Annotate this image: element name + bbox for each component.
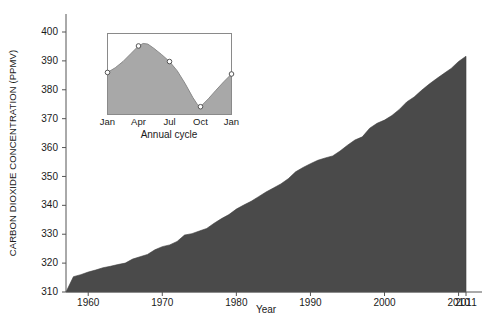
chart-canvas: 310320330340350360370380390400 CARBON DI… — [0, 0, 491, 329]
x-tick-label: 2000 — [373, 297, 396, 308]
y-tick-label: 360 — [41, 142, 58, 153]
x-tick-label: 2011 — [455, 297, 477, 308]
inset-xtick-label: Jul — [163, 116, 175, 127]
inset-xtick-label: Oct — [193, 116, 208, 127]
inset-data-point — [229, 72, 234, 77]
inset-data-point — [198, 104, 203, 109]
x-axis-title: Year — [256, 304, 277, 315]
y-tick-label: 320 — [41, 257, 58, 268]
y-tick-label: 310 — [41, 286, 58, 297]
y-tick-label: 400 — [41, 26, 58, 37]
x-tick-label: 1980 — [225, 297, 248, 308]
inset-xtick-label: Jan — [100, 116, 115, 127]
x-tick-label: 1970 — [151, 297, 174, 308]
y-tick-label: 340 — [41, 199, 58, 210]
x-tick-label: 1960 — [77, 297, 100, 308]
inset-axis-title: Annual cycle — [141, 129, 198, 140]
y-axis-title: CARBON DIOXIDE CONCENTRATION (PPMV) — [7, 50, 18, 257]
co2-concentration-figure: 310320330340350360370380390400 CARBON DI… — [0, 0, 491, 329]
y-tick-label: 330 — [41, 228, 58, 239]
inset-data-point — [105, 70, 110, 75]
inset-data-point — [136, 44, 141, 49]
inset-xtick-label: Apr — [131, 116, 146, 127]
y-tick-label: 390 — [41, 55, 58, 66]
y-tick-label: 380 — [41, 84, 58, 95]
x-tick-label: 1990 — [299, 297, 322, 308]
inset-xtick-label: Jan — [224, 116, 239, 127]
y-tick-label: 370 — [41, 113, 58, 124]
y-tick-label: 350 — [41, 171, 58, 182]
inset-data-point — [167, 59, 172, 64]
